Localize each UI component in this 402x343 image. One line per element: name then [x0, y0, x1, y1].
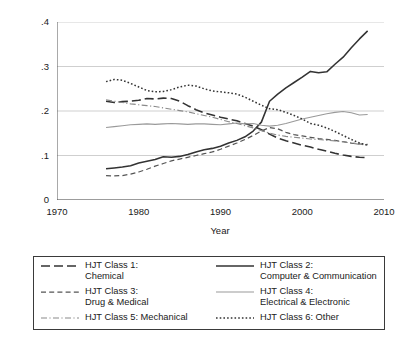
y-tick-label-0: 0 [27, 195, 49, 204]
solid-light-line-icon [216, 289, 254, 300]
legend-entry-class-1: HJT Class 1:Chemical [34, 257, 209, 283]
legend-label-line2: Electrical & Electronic [260, 297, 350, 308]
series-line-hjt-class-6-other [106, 79, 368, 145]
legend-label-class-1: HJT Class 1:Chemical [85, 260, 138, 283]
legend-entry-class-3: HJT Class 3:Drug & Medical [34, 283, 209, 309]
chart-legend: HJT Class 1:ChemicalHJT Class 2:Computer… [33, 256, 385, 330]
legend-label-line2: Drug & Medical [85, 297, 149, 308]
series-line-hjt-class-4-electrical-electronic [106, 111, 368, 127]
series-line-hjt-class-3-drug-medical [106, 127, 368, 176]
x-tick-label-2: 1990 [201, 207, 241, 217]
y-tick-label-3: .3 [27, 62, 49, 71]
legend-label-line1: HJT Class 3: [85, 286, 149, 297]
medium-dash-line-icon [41, 289, 79, 300]
legend-label-class-6: HJT Class 6: Other [260, 312, 339, 323]
legend-label-class-5: HJT Class 5: Mechanical [85, 312, 188, 323]
legend-label-line2: Chemical [85, 271, 138, 282]
solid-line-icon [216, 263, 254, 274]
x-tick-label-3: 2000 [282, 207, 322, 217]
series-line-hjt-class-5-mechanical [106, 100, 368, 145]
plot-svg [57, 22, 384, 200]
legend-entry-class-5: HJT Class 5: Mechanical [34, 309, 209, 329]
legend-label-line1: HJT Class 5: Mechanical [85, 312, 188, 323]
x-tick-label-0: 1970 [37, 207, 77, 217]
legend-grid: HJT Class 1:ChemicalHJT Class 2:Computer… [34, 257, 384, 329]
legend-label-class-4: HJT Class 4:Electrical & Electronic [260, 286, 350, 309]
long-dash-line-icon [41, 263, 79, 274]
chart-page: Fraction of all patents 0.1.2.3.4 197019… [0, 0, 402, 343]
legend-label-line2: Computer & Communication [260, 271, 377, 282]
y-axis-title: Fraction of all patents [0, 0, 7, 14]
legend-entry-class-6: HJT Class 6: Other [209, 309, 386, 329]
plot-area [57, 22, 384, 200]
y-tick-label-2: .2 [27, 106, 49, 115]
legend-label-line1: HJT Class 2: [260, 260, 377, 271]
legend-label-line1: HJT Class 1: [85, 260, 138, 271]
dash-dot-line-icon [41, 315, 79, 326]
x-tick-label-1: 1980 [119, 207, 159, 217]
y-tick-label-1: .1 [27, 151, 49, 160]
legend-entry-class-2: HJT Class 2:Computer & Communication [209, 257, 386, 283]
legend-label-line1: HJT Class 6: Other [260, 312, 339, 323]
chart-figure: Fraction of all patents 0.1.2.3.4 197019… [0, 0, 402, 248]
legend-label-class-2: HJT Class 2:Computer & Communication [260, 260, 377, 283]
legend-label-class-3: HJT Class 3:Drug & Medical [85, 286, 149, 309]
series-line-hjt-class-2-computer-communication [106, 31, 368, 169]
x-axis-title: Year [190, 225, 250, 236]
legend-entry-class-4: HJT Class 4:Electrical & Electronic [209, 283, 386, 309]
x-tick-label-4: 2010 [364, 207, 402, 217]
legend-label-line1: HJT Class 4: [260, 286, 350, 297]
y-tick-label-4: .4 [27, 17, 49, 26]
dotted-line-icon [216, 315, 254, 326]
